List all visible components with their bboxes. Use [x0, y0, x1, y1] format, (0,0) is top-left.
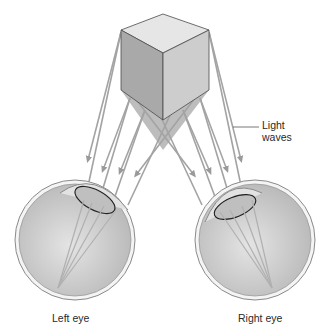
light-waves-label-line1: Light: [262, 119, 285, 131]
right-eye-label: Right eye: [238, 312, 282, 324]
left-eye: [15, 180, 135, 300]
binocular-vision-diagram: Light waves Left eye Right eye: [0, 0, 329, 330]
light-waves-label-line2: waves: [262, 131, 292, 143]
diagram-canvas: [0, 0, 329, 330]
right-eye: [195, 180, 315, 300]
left-eye-label: Left eye: [52, 312, 89, 324]
